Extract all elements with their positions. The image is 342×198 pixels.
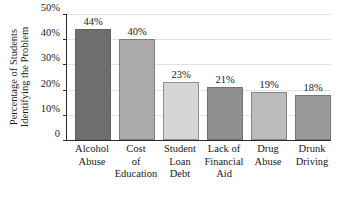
y-axis-title-line-1: Percentage of Students <box>8 29 19 125</box>
bar-student-loan-debt[interactable] <box>163 82 199 140</box>
bar-value-lack-of-financial-aid: 21% <box>215 74 234 86</box>
bar-group-student-loan-debt: 23% <box>163 14 199 140</box>
bar-chart: Percentage of Students Identifying the P… <box>0 0 342 198</box>
bar-alcohol-abuse[interactable] <box>75 29 111 140</box>
x-label-drunk-driving: Drunk Driving <box>284 143 340 168</box>
bar-lack-of-financial-aid[interactable] <box>207 87 243 140</box>
bars-layer: 44% 40% 23% 21% 19% 18% <box>67 14 331 140</box>
bar-value-student-loan-debt: 23% <box>171 69 190 81</box>
bar-drug-abuse[interactable] <box>251 92 287 140</box>
bar-group-drunk-driving: 18% <box>295 14 331 140</box>
bar-cost-of-education[interactable] <box>119 39 155 140</box>
x-axis-line <box>66 140 331 141</box>
bar-group-cost-of-education: 40% <box>119 14 155 140</box>
y-tick-label-50: 50% <box>41 2 60 14</box>
x-label-lack-of-financial-aid-line-3: Aid <box>196 168 252 181</box>
y-tick-label-20: 20% <box>41 78 60 90</box>
x-label-drunk-driving-line-1: Drunk <box>284 143 340 156</box>
y-tick-label-0: 0 <box>55 128 60 140</box>
bar-group-lack-of-financial-aid: 21% <box>207 14 243 140</box>
bar-value-cost-of-education: 40% <box>127 26 146 38</box>
y-tick-label-10: 10% <box>41 103 60 115</box>
bar-value-drunk-driving: 18% <box>303 82 322 94</box>
y-axis-tick-labels: 50% 40% 30% 20% 10% 0 <box>22 8 60 140</box>
bar-drunk-driving[interactable] <box>295 95 331 140</box>
plot-area: 44% 40% 23% 21% 19% 18% <box>66 14 330 140</box>
bar-group-drug-abuse: 19% <box>251 14 287 140</box>
bar-value-drug-abuse: 19% <box>259 79 278 91</box>
bar-group-alcohol-abuse: 44% <box>75 14 111 140</box>
y-tick-label-40: 40% <box>41 27 60 39</box>
x-axis-category-labels: Alcohol Abuse Cost of Education Student … <box>66 143 330 198</box>
bar-value-alcohol-abuse: 44% <box>83 16 102 28</box>
x-label-drunk-driving-line-2: Driving <box>284 156 340 169</box>
y-tick-label-30: 30% <box>41 52 60 64</box>
